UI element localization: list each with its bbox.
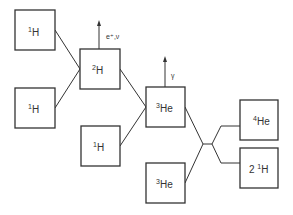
emission-label-he3a: γ <box>171 72 175 80</box>
node-h1c: 1H <box>81 126 120 166</box>
emission-label-h2: e⁺,ν <box>106 33 120 40</box>
edge-h1c-he3a <box>120 107 146 146</box>
edge-junction-h1out <box>212 144 240 163</box>
node-he3b: 3He <box>146 163 185 203</box>
edge-he3a-junction <box>185 107 203 144</box>
edge-h2-he3a <box>120 69 146 107</box>
node-h1a: 1H <box>15 10 55 50</box>
proton-proton-chain-diagram: e⁺,ν γ 1H 1H 2H 1H 3He 3He 4He 2 1H <box>0 0 293 215</box>
node-h1b: 1H <box>15 88 55 128</box>
node-h2: 2H <box>80 49 120 89</box>
node-he3a: 3He <box>146 87 185 127</box>
arrowhead-icon <box>163 56 167 62</box>
edge-h1b-h2 <box>55 69 80 108</box>
arrowhead-icon <box>97 20 101 26</box>
edge-junction-he4 <box>212 126 240 144</box>
edge-he3b-junction <box>185 144 203 183</box>
node-he4: 4He <box>240 100 278 140</box>
edge-h1a-h2 <box>55 30 80 69</box>
node-h1out: 2 1H <box>240 148 278 188</box>
